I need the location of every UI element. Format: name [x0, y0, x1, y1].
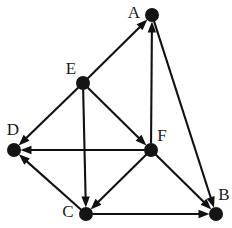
labels-layer: ABCDEF — [7, 3, 230, 221]
edge-e-to-c — [81, 90, 89, 208]
edge-line — [25, 88, 78, 139]
edge-line — [154, 21, 211, 199]
edge-c-to-b — [93, 210, 210, 218]
graph-node-a[interactable] — [145, 8, 159, 22]
edge-line — [156, 155, 205, 203]
node-label-a: A — [128, 3, 141, 22]
edge-a-to-b — [154, 21, 215, 208]
edge-line — [88, 88, 140, 139]
edge-line — [151, 31, 152, 144]
graph-node-b[interactable] — [209, 207, 223, 221]
arrowhead-icon — [81, 196, 89, 207]
edge-line — [83, 90, 85, 199]
graph-node-e[interactable] — [76, 76, 90, 90]
edge-f-to-a — [148, 22, 156, 144]
edge-line — [88, 26, 141, 78]
edge-line — [97, 155, 146, 203]
node-label-d: D — [7, 120, 19, 139]
node-label-e: E — [66, 59, 76, 78]
graph-node-f[interactable] — [144, 143, 158, 157]
node-label-f: F — [157, 126, 166, 145]
edge-f-to-c — [91, 155, 147, 210]
graph-node-c[interactable] — [79, 207, 93, 221]
edge-f-to-b — [156, 155, 212, 210]
directed-graph-figure: ABCDEF — [0, 0, 232, 228]
arrowhead-icon — [199, 210, 210, 218]
edge-e-to-d — [19, 88, 79, 146]
graph-node-d[interactable] — [7, 143, 21, 157]
arrowhead-icon — [21, 146, 32, 154]
graph-canvas: ABCDEF — [0, 0, 232, 228]
edge-e-to-a — [88, 20, 148, 79]
edge-e-to-f — [88, 88, 147, 146]
edges-layer — [19, 20, 215, 219]
node-label-c: C — [62, 202, 73, 221]
node-label-b: B — [218, 185, 229, 204]
edge-f-to-d — [21, 146, 145, 154]
